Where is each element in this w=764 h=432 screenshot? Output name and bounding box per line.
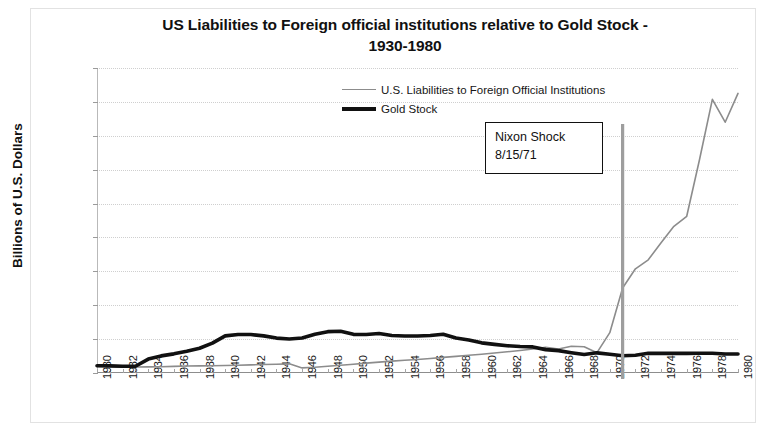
legend-item-liabilities[interactable]: U.S. Liabilities to Foreign Official Ins… bbox=[342, 80, 605, 99]
nixon-shock-title: Nixon Shock bbox=[495, 128, 602, 146]
x-tick-mark bbox=[738, 369, 739, 373]
y-tick-mark bbox=[93, 373, 98, 374]
nixon-shock-annotation: Nixon Shock 8/15/71 bbox=[485, 122, 603, 174]
x-tick-label: 1980 bbox=[742, 355, 754, 379]
y-axis-title: Billions of U.S. Dollars bbox=[10, 116, 25, 276]
legend-label-gold-stock: Gold Stock bbox=[381, 103, 437, 115]
nixon-shock-date: 8/15/71 bbox=[495, 146, 602, 164]
plot-area: 1800001600001400001200001000008000060000… bbox=[97, 68, 738, 373]
chart-container: US Liabilities to Foreign official insti… bbox=[0, 0, 764, 432]
chart-title: US Liabilities to Foreign official insti… bbox=[120, 14, 690, 57]
chart-title-line-1: US Liabilities to Foreign official insti… bbox=[162, 16, 647, 33]
legend-swatch-liabilities-icon bbox=[342, 89, 376, 90]
legend-swatch-gold-stock-icon bbox=[342, 107, 376, 111]
chart-title-line-2: 1930-1980 bbox=[368, 37, 441, 54]
legend-label-liabilities: U.S. Liabilities to Foreign Official Ins… bbox=[381, 84, 605, 96]
legend-item-gold-stock[interactable]: Gold Stock bbox=[342, 99, 605, 118]
chart-legend: U.S. Liabilities to Foreign Official Ins… bbox=[342, 80, 605, 118]
